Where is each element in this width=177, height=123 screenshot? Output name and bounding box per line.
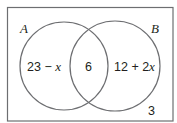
venn-diagram: A B 23 − x 6 12 + 2x 3 [0, 0, 177, 123]
b-only-value: 12 + 2x [114, 59, 155, 74]
set-b-label: B [151, 21, 159, 36]
set-a-label: A [19, 21, 28, 36]
outside-value: 3 [148, 104, 155, 118]
intersection-value: 6 [85, 60, 92, 74]
a-only-value: 23 − x [27, 59, 61, 74]
